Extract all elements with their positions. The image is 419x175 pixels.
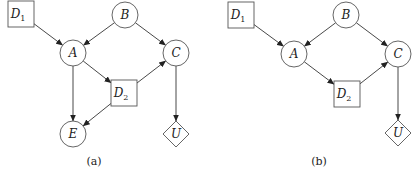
- decision-node-d1: D1: [8, 1, 34, 27]
- decision-node-d2: D2: [111, 80, 137, 106]
- node-label: C: [171, 46, 180, 60]
- edge-b-to-a: [83, 23, 114, 46]
- node-subscript: 2: [123, 93, 128, 102]
- node-subscript: 1: [240, 15, 245, 24]
- utility-node-u: U: [385, 120, 411, 146]
- chance-node-e: E: [60, 121, 86, 147]
- edge-b-to-c: [356, 23, 387, 46]
- edge-d1-to-a: [34, 24, 63, 45]
- decision-node-d2: D2: [334, 81, 360, 107]
- node-label: B: [120, 8, 130, 22]
- panel-a: D1BACD2EU(a): [8, 1, 189, 168]
- chance-node-a: A: [281, 41, 307, 67]
- node-subscript: 1: [20, 14, 25, 23]
- influence-diagram-figure: D1BACD2EU(a)D1BACD2U(b): [0, 0, 419, 175]
- node-label: E: [68, 127, 78, 141]
- edge-a-to-d2: [83, 61, 111, 83]
- edge-b-to-c: [135, 23, 165, 45]
- node-label: C: [393, 47, 402, 61]
- edge-d1-to-a: [254, 25, 284, 47]
- node-label: U: [393, 126, 404, 140]
- panel-caption: (b): [311, 155, 327, 168]
- edge-a-to-d2: [304, 62, 334, 84]
- chance-node-a: A: [60, 40, 86, 66]
- utility-node-u: U: [163, 121, 189, 147]
- chance-node-c: C: [163, 40, 189, 66]
- edge-d2-to-c: [360, 62, 388, 84]
- chance-node-b: B: [333, 2, 359, 28]
- panel-b: D1BACD2U(b): [228, 2, 411, 168]
- panel-caption: (a): [86, 155, 101, 168]
- edge-d2-to-e: [83, 103, 111, 125]
- edge-d2-to-c: [137, 61, 166, 83]
- node-label: A: [289, 47, 299, 61]
- edge-b-to-a: [304, 23, 335, 46]
- decision-node-d1: D1: [228, 2, 254, 28]
- node-label: B: [341, 8, 351, 22]
- node-label: U: [171, 127, 182, 141]
- node-label: A: [68, 46, 78, 60]
- chance-node-c: C: [385, 41, 411, 67]
- node-subscript: 2: [346, 94, 351, 103]
- chance-node-b: B: [112, 2, 138, 28]
